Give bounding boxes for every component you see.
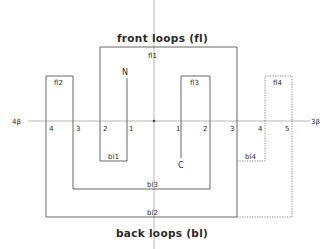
strand-number-right-4: 4 (258, 125, 263, 133)
center-point (153, 120, 156, 123)
axis-right-label: 3β (311, 118, 320, 126)
back-loop-bl2 (46, 121, 237, 217)
strand-number-right-5: 5 (285, 125, 289, 133)
strand-number-left-3: 3 (76, 125, 80, 133)
label-fl1: fl1 (148, 52, 157, 60)
strand-number-right-3: 3 (230, 125, 234, 133)
label-bl1: bl1 (108, 153, 119, 161)
label-bl4: bl4 (245, 153, 256, 161)
front-loops-title: front loops (fl) (117, 32, 208, 44)
strand-number-right-1: 1 (176, 125, 180, 133)
front-loop-fl1 (100, 47, 237, 121)
label-bl3: bl3 (147, 181, 158, 189)
loop-topology-diagram: front loops (fl) back loops (bl) 4β 3β N… (0, 0, 333, 249)
strand-number-left-1: 1 (129, 125, 133, 133)
back-loop-bl3 (73, 121, 210, 189)
c-terminus-label: C (178, 161, 184, 170)
n-terminus-label: N (122, 68, 128, 77)
label-fl4: fl4 (273, 79, 282, 87)
strand-number-left-2: 2 (103, 125, 107, 133)
back-loops-title: back loops (bl) (116, 227, 208, 239)
axis-left-label: 4β (12, 118, 21, 126)
label-fl3: fl3 (190, 79, 199, 87)
strand-number-left-4: 4 (49, 125, 54, 133)
back-loop-extension (237, 121, 292, 217)
label-bl2: bl2 (147, 209, 158, 217)
label-fl2: fl2 (54, 79, 63, 87)
strand-number-right-2: 2 (203, 125, 207, 133)
